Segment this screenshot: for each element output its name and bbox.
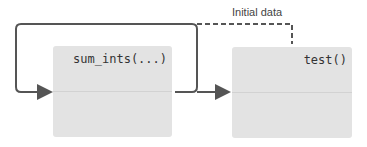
test-label: test() — [304, 53, 347, 67]
sum-ints-label: sum_ints(...) — [73, 52, 167, 66]
initial-data-edge — [197, 24, 292, 44]
divider — [53, 91, 172, 92]
initial-data-label: Initial data — [232, 6, 282, 18]
sum-ints-node: sum_ints(...) — [53, 46, 172, 137]
divider — [232, 92, 352, 93]
test-node: test() — [232, 47, 352, 138]
